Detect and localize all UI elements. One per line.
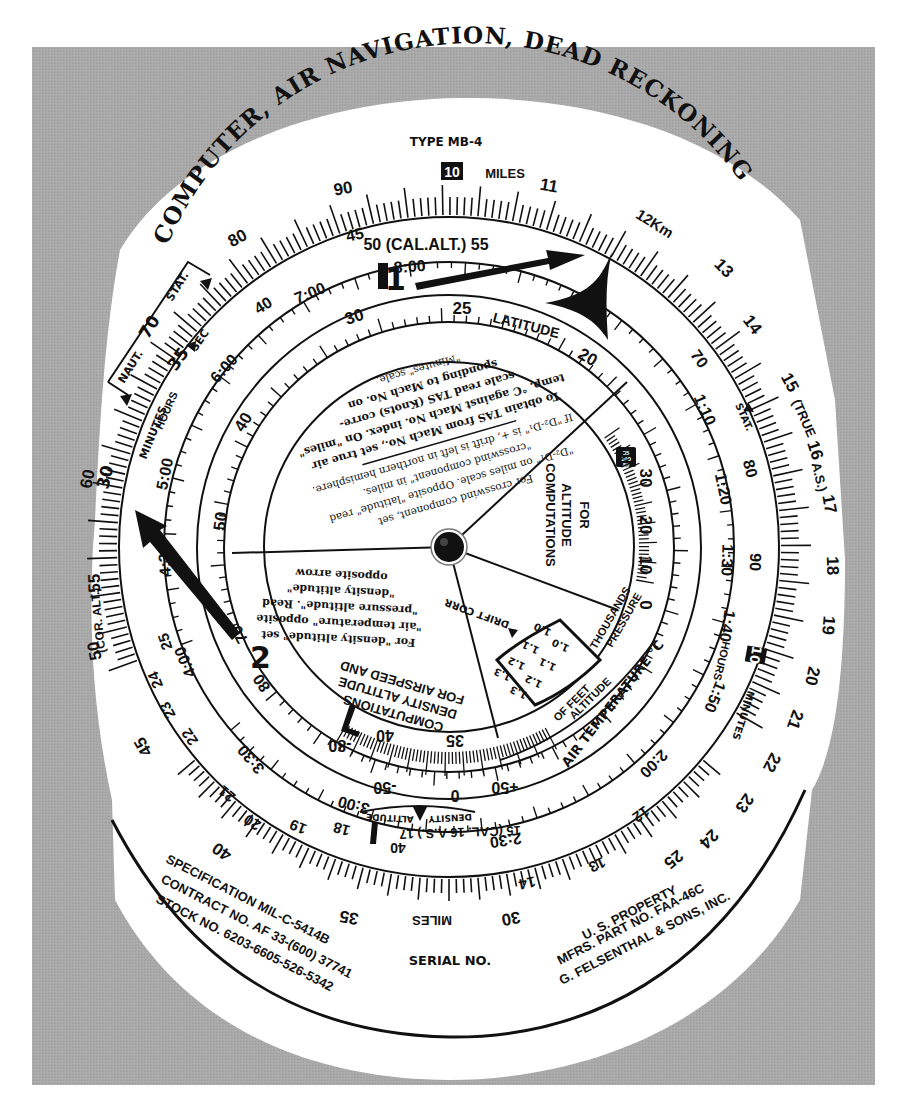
tick-mark xyxy=(167,506,173,507)
tick-mark xyxy=(99,565,117,566)
tick-mark xyxy=(434,772,435,786)
svg-text:10: 10 xyxy=(747,645,765,665)
tick-mark xyxy=(781,560,799,561)
tick-mark xyxy=(442,185,443,215)
serial-number-label: SERIAL NO. xyxy=(409,953,492,968)
svg-text:50: 50 xyxy=(210,511,231,532)
tick-mark xyxy=(471,771,472,778)
svg-text:50 (CAL.ALT.) 55: 50 (CAL.ALT.) 55 xyxy=(363,236,488,253)
tick-mark xyxy=(673,526,680,527)
svg-text:0: 0 xyxy=(450,787,459,804)
svg-text:ALTITUDE: ALTITUDE xyxy=(559,483,574,547)
miles-index-value: 10 xyxy=(444,164,460,180)
tick-mark xyxy=(434,752,435,764)
svg-text:17: 17 xyxy=(818,493,840,515)
tick-mark xyxy=(459,752,460,764)
svg-text:19: 19 xyxy=(818,615,839,636)
tick-mark xyxy=(99,536,117,537)
svg-text:35: 35 xyxy=(338,906,360,928)
tick-mark xyxy=(434,879,435,893)
tick-mark xyxy=(417,317,418,324)
tick-mark xyxy=(426,878,427,892)
tick-mark xyxy=(428,198,429,216)
tick-mark xyxy=(638,531,648,532)
svg-text:55: 55 xyxy=(85,573,105,593)
svg-text:11: 11 xyxy=(538,175,559,197)
svg-text:1: 1 xyxy=(385,262,406,297)
tick-mark xyxy=(164,534,176,535)
tick-mark xyxy=(429,316,430,323)
svg-text:MILES: MILES xyxy=(412,913,452,928)
svg-text:20: 20 xyxy=(801,665,824,687)
svg-text:2: 2 xyxy=(250,640,271,675)
svg-text:FOR: FOR xyxy=(577,501,592,529)
tick-mark xyxy=(438,752,439,764)
svg-text:90: 90 xyxy=(747,553,765,571)
navigation-computer-diagram: COMPUTER, AIR NAVIGATION, DEAD RECKONING… xyxy=(0,0,910,1117)
tick-mark xyxy=(726,580,732,581)
svg-text:+50: +50 xyxy=(491,779,518,796)
tick-mark xyxy=(672,575,679,576)
svg-text:-50: -50 xyxy=(373,779,396,796)
tick-mark xyxy=(639,535,649,536)
svg-text:40: 40 xyxy=(376,727,394,744)
tick-mark xyxy=(478,317,479,324)
svg-text:COMPUTATIONS: COMPUTATIONS xyxy=(543,463,558,567)
svg-text:1:30: 1:30 xyxy=(718,544,736,577)
svg-text:30: 30 xyxy=(500,907,522,929)
tick-mark xyxy=(219,577,226,578)
tick-mark xyxy=(724,594,730,595)
tick-mark xyxy=(479,264,480,270)
tick-mark xyxy=(463,879,464,893)
tick-mark xyxy=(165,520,171,521)
tick-mark xyxy=(464,197,465,215)
tick-mark xyxy=(780,567,798,568)
svg-text:90: 90 xyxy=(332,178,354,200)
miles-label: MILES xyxy=(485,166,525,181)
tick-mark xyxy=(99,529,117,530)
tick-mark xyxy=(435,197,436,215)
subtitle-text: TYPE MB-4 xyxy=(410,135,482,149)
svg-text:45: 45 xyxy=(344,224,365,244)
tick-mark xyxy=(422,770,423,777)
svg-text:25: 25 xyxy=(453,299,472,318)
svg-text:-80: -80 xyxy=(328,737,351,754)
tick-mark xyxy=(465,262,466,274)
tick-mark xyxy=(781,531,799,532)
center-pivot[interactable] xyxy=(431,529,467,565)
tick-mark xyxy=(87,558,117,559)
tick-mark xyxy=(471,878,472,892)
svg-text:18: 18 xyxy=(823,556,843,576)
svg-text:35: 35 xyxy=(446,732,464,749)
tick-mark xyxy=(639,558,649,559)
